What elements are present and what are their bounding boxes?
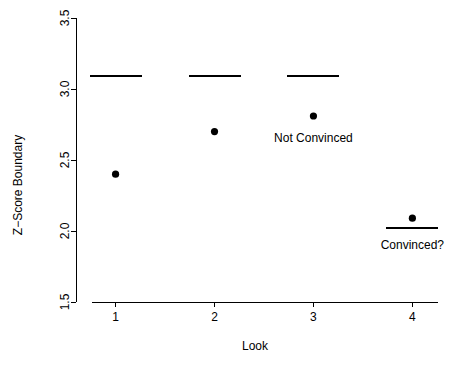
plot-canvas: 1.52.02.53.03.5 1234 Z−Score Boundary Lo…: [0, 0, 474, 369]
x-axis-title: Look: [242, 339, 269, 353]
y-tick-label: 3.5: [58, 9, 72, 26]
y-tick-label: 2.0: [58, 222, 72, 239]
y-tick-label: 1.5: [58, 293, 72, 310]
boundary-segments: [90, 76, 439, 228]
y-axis-ticks: 1.52.02.53.03.5: [58, 9, 76, 310]
chart-annotations: Not ConvincedConvinced?: [274, 131, 444, 253]
x-tick-label: 1: [112, 310, 119, 324]
data-point: [409, 215, 416, 222]
annotation-label: Convinced?: [381, 238, 445, 252]
y-tick-label: 3.0: [58, 80, 72, 97]
data-point: [310, 112, 317, 119]
x-tick-label: 2: [211, 310, 218, 324]
x-tick-label: 4: [409, 310, 416, 324]
x-tick-label: 3: [310, 310, 317, 324]
data-point: [211, 128, 218, 135]
x-axis-ticks: 1234: [112, 302, 416, 324]
x-axis: 1234: [92, 302, 439, 324]
y-axis-title: Z−Score Boundary: [11, 135, 25, 235]
y-axis: 1.52.02.53.03.5: [58, 9, 76, 310]
data-point: [112, 171, 119, 178]
y-tick-label: 2.5: [58, 151, 72, 168]
data-points: [112, 112, 416, 221]
annotation-label: Not Convinced: [274, 131, 353, 145]
z-score-boundary-chart: 1.52.02.53.03.5 1234 Z−Score Boundary Lo…: [0, 0, 474, 369]
